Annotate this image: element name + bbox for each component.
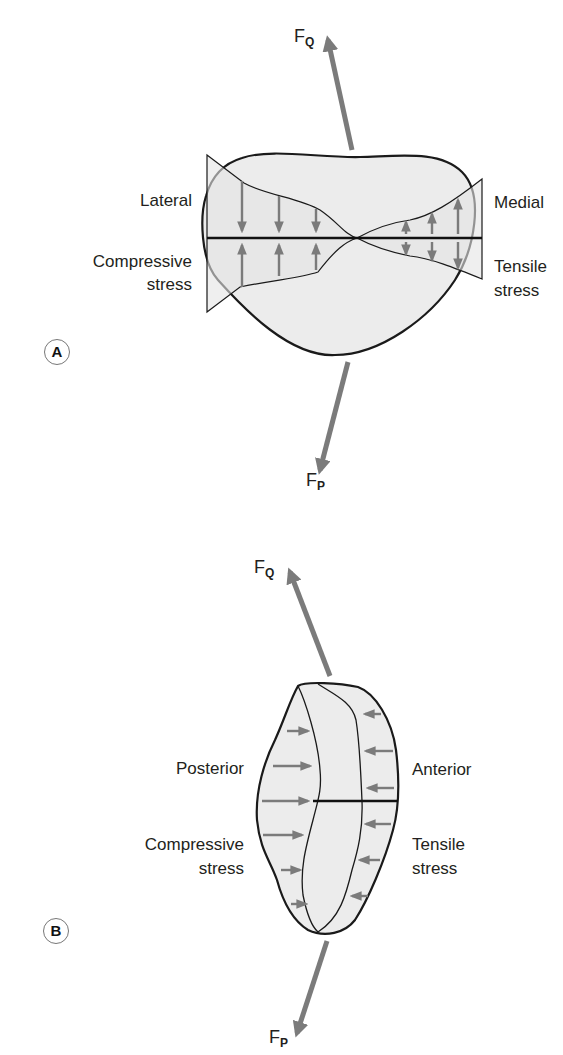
label-tensile-b: Tensile: [412, 834, 465, 855]
force-symbol: F: [306, 470, 317, 490]
force-p-arrow-a: [320, 362, 348, 470]
label-tensile-a: Tensile: [494, 256, 547, 277]
panel-a: [202, 40, 482, 470]
diagram-canvas: [0, 0, 563, 1055]
force-symbol: F: [269, 1027, 280, 1047]
force-subscript: P: [280, 1036, 288, 1050]
force-p-label-b: FP: [269, 1027, 288, 1050]
label-compressive-a: Compressive: [60, 251, 192, 272]
panel-badge-a: A: [44, 339, 70, 365]
force-p-label-a: FP: [306, 470, 325, 493]
label-lateral: Lateral: [80, 190, 192, 211]
force-q-arrow-b: [290, 572, 330, 676]
force-p-arrow-b: [297, 941, 327, 1033]
force-subscript: Q: [265, 566, 274, 580]
panel-b: [257, 572, 399, 1033]
cross-section-outline-b: [257, 683, 399, 934]
force-q-label-b: FQ: [254, 557, 274, 580]
label-compressive-b: Compressive: [100, 834, 244, 855]
label-stress-compressive-b: stress: [100, 858, 244, 879]
force-symbol: F: [254, 557, 265, 577]
force-q-arrow-a: [328, 40, 352, 150]
force-subscript: P: [317, 479, 325, 493]
label-stress-compressive-a: stress: [60, 274, 192, 295]
force-symbol: F: [294, 26, 305, 46]
force-q-label-a: FQ: [294, 26, 314, 49]
label-stress-tensile-b: stress: [412, 858, 457, 879]
label-anterior: Anterior: [412, 759, 472, 780]
force-subscript: Q: [305, 35, 314, 49]
label-posterior: Posterior: [140, 758, 244, 779]
panel-badge-b: B: [43, 918, 69, 944]
label-stress-tensile-a: stress: [494, 280, 539, 301]
label-medial: Medial: [494, 192, 544, 213]
